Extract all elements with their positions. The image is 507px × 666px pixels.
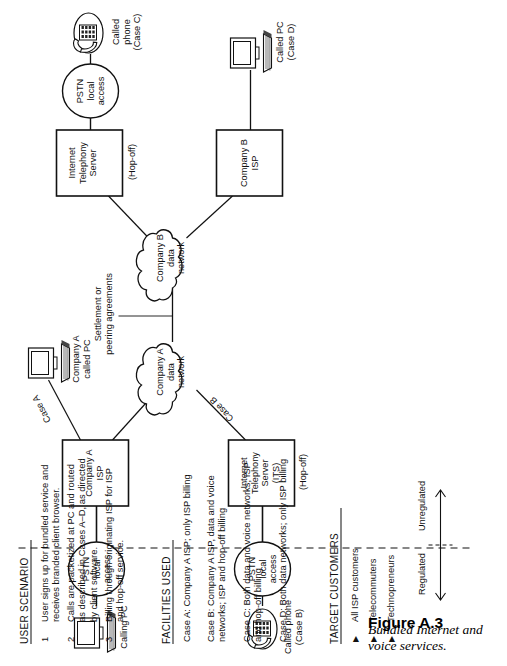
figure-caption: Bundled Internet and voice services. [368, 622, 507, 654]
label-settlement-peering: Settlement or peering agreements [92, 262, 113, 366]
label-company-b-data-network: Company B data network [154, 226, 186, 290]
user-scenario-text-3: Billing through originating ISP for ISP … [102, 402, 125, 622]
target-customer-item-2: Telecommuters [366, 442, 377, 622]
label-its-left-hopoff: (Hop-off) [297, 444, 308, 500]
user-scenario-title: USER SCENARIO [18, 540, 31, 644]
label-called-phone-c: Called phone (Case C) [110, 4, 142, 60]
target-customers-title: TARGET CUSTOMERS [328, 508, 341, 644]
facilities-item-4: Case D: Both data networks; only ISP bil… [276, 392, 287, 642]
user-scenario-text-1: User signs up for bundled service and re… [38, 402, 61, 622]
user-scenario-num-3: 3 [102, 637, 113, 642]
facilities-item-1: Case A: Company A ISP; only ISP billing [180, 392, 191, 642]
label-pstn-3: PSTN local access [74, 64, 106, 118]
figure-canvas: Calling PC Called phone (Case B) PSTN lo… [0, 0, 507, 666]
user-scenario-text-2: Calls are packetized at PC and routed as… [64, 394, 98, 622]
user-scenario-num-2: 2 [64, 637, 75, 642]
target-customer-item-1: All ISP customers [348, 442, 359, 622]
facilities-used-title: FACILITIES USED [160, 540, 173, 644]
called-pc-d-icon [230, 30, 271, 72]
bullet-icon-1: ▶ [350, 636, 359, 642]
facilities-item-2: Case B: Company A ISP, data and voice ne… [204, 392, 227, 642]
label-regulated: Regulated [416, 544, 427, 604]
label-its-top-hopoff: (Hop-off) [126, 134, 137, 190]
label-company-a-called-pc: Company A called PC [70, 324, 91, 394]
label-company-b-isp: Company B ISP [238, 131, 259, 195]
user-scenario-num-1: 1 [38, 637, 49, 642]
label-called-pc-d: Called PC (Case D) [274, 6, 295, 78]
company-a-called-pc-icon [28, 340, 69, 382]
label-unregulated: Unregulated [416, 470, 427, 542]
called-phone-c-icon [73, 13, 103, 53]
label-its-top: Internet Telephony Server [66, 131, 98, 195]
target-customer-item-3: Technopreneurs [384, 442, 395, 622]
figure-page: Calling PC Called phone (Case B) PSTN lo… [0, 0, 507, 666]
facilities-item-3: Case C: Both data and voice networks; IS… [240, 392, 263, 642]
rotated-figure-canvas: Calling PC Called phone (Case B) PSTN lo… [0, 0, 507, 666]
